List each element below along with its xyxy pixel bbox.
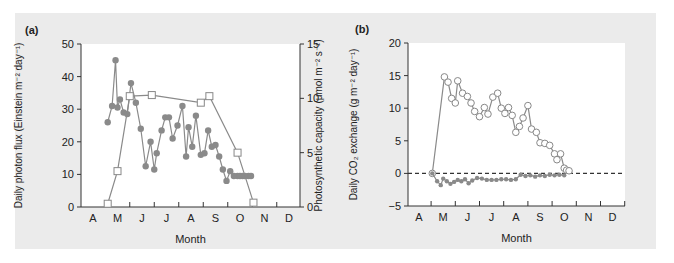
data-point [126, 93, 133, 100]
y-tick-label: 40 [62, 71, 74, 83]
data-point [193, 113, 199, 119]
data-point [452, 100, 459, 107]
data-point [533, 129, 540, 136]
chart-b: −505101520AMJJASONDMonthDaily CO₂ exchan… [348, 23, 625, 244]
data-point [489, 178, 493, 182]
data-point [445, 179, 449, 183]
data-point [174, 122, 180, 128]
x-axis-label: Month [175, 233, 206, 245]
data-point [151, 166, 157, 172]
y-right-axis-label: Photosynthetic capacity (μmol m⁻² s⁻¹) [313, 40, 324, 212]
x-tick-label: S [536, 211, 543, 223]
data-point [109, 103, 115, 109]
data-point [441, 176, 445, 180]
data-point [114, 168, 121, 175]
data-point [509, 112, 516, 119]
data-point [466, 181, 470, 185]
data-point [514, 177, 518, 181]
x-tick-label: S [212, 212, 219, 224]
x-tick-label: J [465, 211, 471, 223]
data-point [128, 80, 134, 86]
data-point [439, 183, 443, 187]
data-point [197, 99, 204, 106]
data-point [248, 173, 254, 179]
data-point [509, 178, 513, 182]
panel-label: (b) [355, 23, 369, 35]
data-point [557, 151, 564, 158]
y-tick-label: −5 [388, 200, 401, 212]
data-point [471, 108, 478, 115]
data-point [485, 111, 492, 118]
data-point [154, 150, 160, 156]
data-point [206, 93, 213, 100]
data-point [481, 104, 488, 111]
data-point [463, 177, 467, 181]
data-point [518, 173, 522, 177]
data-point [546, 142, 553, 149]
y-tick-label: 20 [62, 136, 74, 148]
data-point [216, 153, 222, 159]
data-point [468, 100, 475, 107]
data-point [494, 90, 501, 97]
data-point [499, 177, 503, 181]
y-axis-label: Daily CO₂ exchange (g m⁻² day⁻¹) [348, 49, 359, 201]
data-point [201, 150, 207, 156]
data-point [520, 115, 527, 122]
data-point [430, 171, 434, 175]
chart-a: 01020304050051015Photosynthetic capacity… [13, 24, 324, 245]
data-point [105, 119, 111, 125]
x-tick-label: M [439, 211, 448, 223]
x-tick-label: J [164, 212, 170, 224]
x-tick-label: D [285, 212, 293, 224]
x-tick-label: N [584, 211, 592, 223]
data-point [445, 79, 452, 86]
data-point [454, 78, 461, 85]
data-point [470, 178, 474, 182]
x-tick-label: M [113, 212, 122, 224]
data-point [142, 163, 148, 169]
data-point [212, 142, 218, 148]
data-point [504, 177, 508, 181]
data-point [133, 99, 139, 105]
data-point [543, 174, 547, 178]
data-point [205, 127, 211, 133]
data-point [147, 139, 153, 145]
data-point [480, 176, 484, 180]
data-point [185, 124, 191, 130]
data-point [158, 127, 164, 133]
data-point [516, 123, 523, 130]
data-point [112, 57, 118, 63]
data-point [525, 102, 532, 109]
data-point [223, 178, 229, 184]
y-tick-label: 0 [395, 167, 401, 179]
data-point [114, 104, 120, 110]
data-point [234, 149, 241, 156]
y-axis-label: Daily photon flux (Einstein m⁻² day⁻¹) [13, 43, 24, 209]
x-tick-label: J [139, 212, 145, 224]
panel-label: (a) [25, 24, 39, 36]
x-tick-label: A [187, 212, 195, 224]
data-point [552, 173, 556, 177]
data-point [494, 178, 498, 182]
data-point [166, 114, 172, 120]
data-point [148, 92, 155, 99]
data-point [104, 200, 111, 207]
y-tick-label: 5 [395, 135, 401, 147]
data-point [476, 113, 483, 120]
x-tick-label: A [89, 212, 97, 224]
data-point [464, 93, 471, 100]
data-point [189, 143, 195, 149]
x-tick-label: O [236, 212, 245, 224]
x-tick-label: A [415, 211, 423, 223]
data-point [485, 178, 489, 182]
data-point [566, 167, 573, 174]
data-point [183, 153, 189, 159]
data-point [250, 199, 257, 206]
y-tick-label: 10 [62, 168, 74, 180]
data-point [557, 173, 561, 177]
data-point [562, 173, 566, 177]
data-point [547, 173, 551, 177]
x-tick-label: N [261, 212, 269, 224]
data-point [435, 179, 439, 183]
x-tick-label: O [560, 211, 569, 223]
